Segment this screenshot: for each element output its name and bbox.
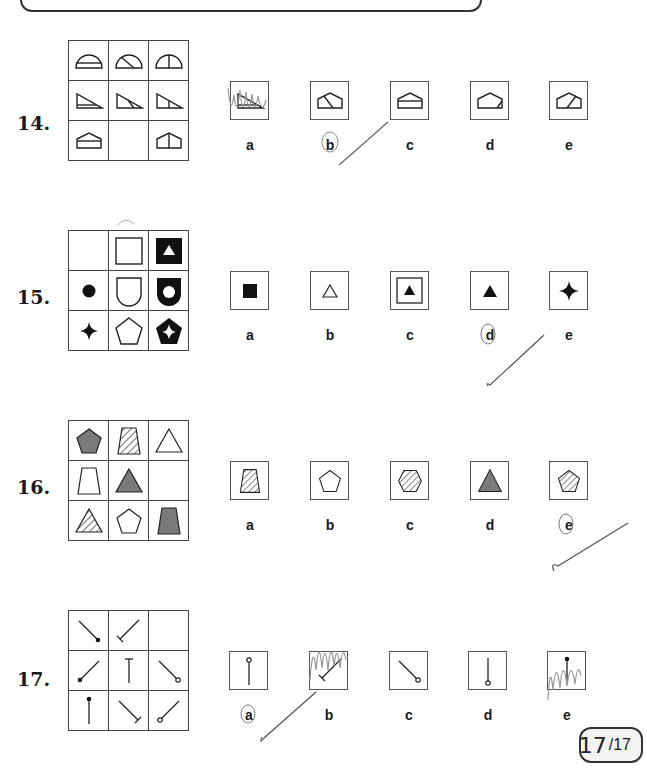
cell: [109, 611, 149, 651]
q15-option-c[interactable]: [390, 271, 429, 310]
score-box: 17 /17: [579, 727, 643, 763]
question-16-matrix: [68, 420, 189, 541]
cell: [109, 231, 149, 271]
q14-label-e: e: [559, 137, 579, 153]
cell: [109, 271, 149, 311]
handwritten-score: 17: [579, 733, 607, 758]
question-17-number: 17.: [17, 668, 50, 690]
cell: [149, 121, 189, 161]
q16-option-a[interactable]: [230, 461, 269, 500]
q14-label-c: c: [400, 137, 420, 153]
cell: [69, 501, 109, 541]
q14-label-b: b: [320, 137, 340, 153]
cell: [109, 311, 149, 351]
cell: [149, 311, 189, 351]
q17-label-b: b: [319, 707, 339, 723]
q17-label-d: d: [478, 707, 498, 723]
q15-label-e: e: [559, 327, 579, 343]
question-15-number: 15.: [17, 286, 50, 308]
q16-option-c[interactable]: [390, 461, 429, 500]
cell: [149, 231, 189, 271]
cell: [69, 691, 109, 731]
cell: [69, 421, 109, 461]
cell: [149, 271, 189, 311]
cell-missing: [69, 231, 109, 271]
q17-label-a: a: [239, 707, 259, 723]
q15-label-a: a: [240, 327, 260, 343]
cell: [149, 41, 189, 81]
question-17-matrix: [68, 610, 189, 731]
q16-option-e[interactable]: [549, 461, 588, 500]
cell-missing: [149, 611, 189, 651]
cell: [109, 81, 149, 121]
q17-label-e: e: [557, 707, 577, 723]
cell: [69, 81, 109, 121]
cell: [69, 121, 109, 161]
q14-option-c[interactable]: [390, 81, 429, 120]
q14-label-a: a: [240, 137, 260, 153]
pencil-mark: [118, 220, 134, 225]
cell: [69, 651, 109, 691]
q17-option-d[interactable]: [468, 651, 507, 690]
q17-option-c[interactable]: [389, 651, 428, 690]
q15-label-c: c: [400, 327, 420, 343]
q16-label-e: e: [559, 517, 579, 533]
q14-option-a[interactable]: [230, 81, 269, 120]
cell: [109, 651, 149, 691]
check-mark: [339, 122, 388, 165]
q16-label-c: c: [400, 517, 420, 533]
question-14-matrix: [68, 40, 189, 161]
check-mark: [261, 692, 316, 741]
cell: [109, 501, 149, 541]
cell: [149, 81, 189, 121]
q16-label-d: d: [480, 517, 500, 533]
cell: [109, 461, 149, 501]
cell-missing: [149, 461, 189, 501]
q17-label-c: c: [399, 707, 419, 723]
q17-option-b[interactable]: [309, 651, 348, 690]
question-16-number: 16.: [17, 476, 50, 498]
q15-option-b[interactable]: [310, 271, 349, 310]
cell: [69, 271, 109, 311]
q16-label-a: a: [240, 517, 260, 533]
q16-label-b: b: [320, 517, 340, 533]
question-14-number: 14.: [17, 112, 50, 134]
cell: [69, 611, 109, 651]
cell: [69, 461, 109, 501]
q15-option-e[interactable]: [549, 271, 588, 310]
cell: [69, 311, 109, 351]
cell: [149, 501, 189, 541]
top-instructions-box: [20, 0, 482, 12]
cell: [149, 421, 189, 461]
q15-label-b: b: [320, 327, 340, 343]
q17-option-e[interactable]: [547, 651, 586, 690]
q15-option-a[interactable]: [230, 271, 269, 310]
cell: [109, 41, 149, 81]
q16-option-b[interactable]: [310, 461, 349, 500]
q16-option-d[interactable]: [470, 461, 509, 500]
q14-label-d: d: [480, 137, 500, 153]
q17-option-a[interactable]: [229, 651, 268, 690]
cell: [69, 41, 109, 81]
cell-missing: [109, 121, 149, 161]
q15-label-d: d: [480, 327, 500, 343]
question-15-matrix: [68, 230, 189, 351]
cell: [109, 421, 149, 461]
q15-option-d[interactable]: [470, 271, 509, 310]
q14-option-b[interactable]: [310, 81, 349, 120]
cell: [149, 691, 189, 731]
q14-option-d[interactable]: [470, 81, 509, 120]
score-total: /17: [609, 736, 631, 754]
q14-option-e[interactable]: [549, 81, 588, 120]
cell: [109, 691, 149, 731]
cell: [149, 651, 189, 691]
